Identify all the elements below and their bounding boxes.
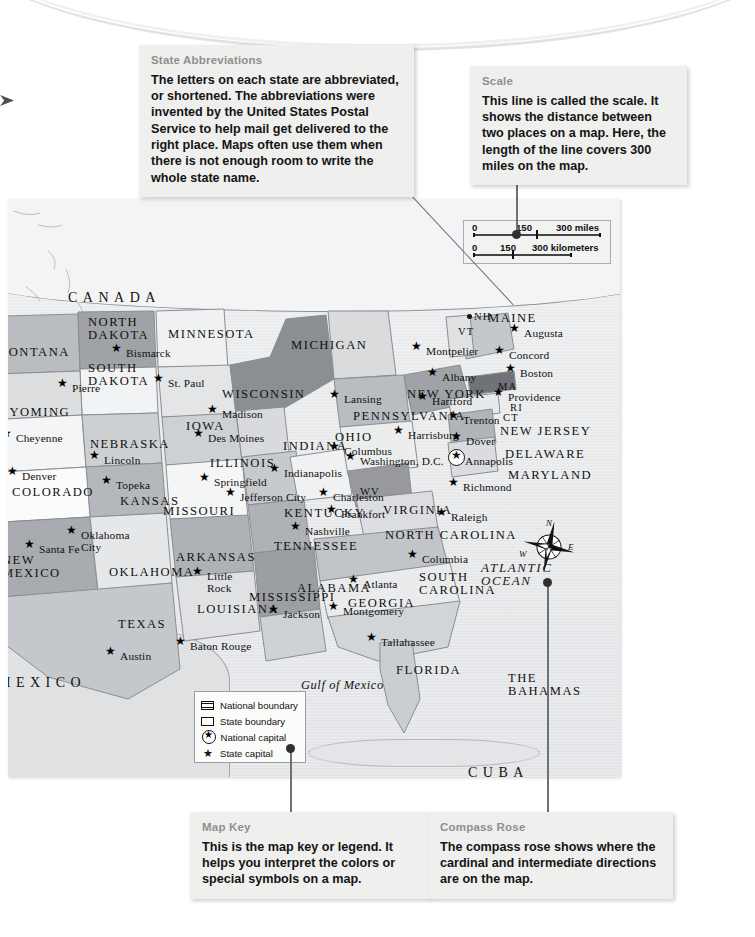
scale-label-km-mid: 150 (500, 242, 516, 253)
map-label-capital-33: Trenton (463, 415, 500, 426)
callout-title: Map Key (202, 821, 418, 834)
map-label-capital-16: Raleigh (451, 512, 487, 523)
page-edge-marker-icon (0, 95, 14, 106)
compass-label-north: N (546, 518, 552, 528)
map-label-state-3: WYOMING (8, 406, 70, 419)
map-label-state-5: NEBRASKA (90, 438, 170, 451)
map-label-capital-35: Hartford (432, 396, 472, 407)
map-label-capital-21: Annapolis (465, 456, 513, 467)
leader-dot-scale (512, 230, 521, 239)
map-scale-bar: 0 150 300 miles 0 150 300 kilometers (463, 220, 611, 264)
map-label-state-11: NEW MEXICO (8, 554, 61, 580)
map-label-capital-37: Boston (520, 368, 553, 379)
map-label-capital-25: Springfield (214, 477, 267, 488)
map-label-state-0: MONTANA (8, 346, 70, 359)
callout-compass-rose: Compass Rose The compass rose shows wher… (428, 812, 673, 899)
callout-body: The compass rose shows where the cardina… (440, 839, 662, 888)
map-label-capital-13: Atlanta (363, 579, 398, 590)
map-label-state-10: OKLAHOMA (109, 566, 194, 579)
map-label-capital-19: Charleston (333, 492, 384, 503)
scale-label-miles-end: 300 miles (556, 222, 599, 233)
map-label-capital-10: Little Rock (207, 571, 233, 594)
map-key-label: National boundary (220, 700, 298, 711)
map-label-state-25: OHIO (335, 431, 372, 444)
page-root: State Abbreviations The letters on each … (0, 0, 755, 937)
map-label-state-23: ILLINOIS (210, 457, 275, 470)
map-key-row-state-boundary: State boundary (201, 713, 299, 729)
map-label-capital-32: Dover (466, 436, 495, 447)
map-label-capital-1: Pierre (72, 383, 100, 394)
state-boundary-swatch-icon (201, 717, 214, 726)
map-label-capital-28: Madison (222, 409, 263, 420)
map-label-country-2: CUBA (468, 766, 529, 777)
map-key-row-state-capital: ★ State capital (201, 745, 299, 761)
scale-label-km-end: 300 kilometers (532, 242, 599, 253)
callout-title: Scale (482, 75, 676, 88)
callout-scale: Scale This line is called the scale. It … (470, 66, 687, 185)
map-label-state-38: NEW JERSEY (500, 425, 591, 438)
nh-point-marker-icon (467, 314, 472, 319)
map-label-capital-6: Santa Fe (39, 544, 80, 555)
map-label-capital-38: Concord (509, 350, 549, 361)
leader-dot-map-key (286, 744, 295, 753)
page-curve-inner (0, 0, 755, 51)
map-label-state-39: DELAWARE (505, 448, 585, 461)
map-label-capital-14: Tallahassee (381, 637, 435, 648)
compass-label-east: E (568, 542, 574, 552)
map-label-capital-23: Columbus (344, 446, 392, 457)
map-label-water-1: Gulf of Mexico (301, 679, 384, 691)
map-label-state-16: ALABAMA (297, 582, 371, 595)
map-label-state-33: NH (474, 312, 492, 323)
callout-body: This line is called the scale. It shows … (482, 93, 676, 175)
compass-rose: N E W (521, 519, 577, 575)
callout-title: State Abbreviations (151, 54, 403, 67)
map-label-state-18: FLORIDA (396, 664, 461, 677)
map-label-state-1: NORTH DAKOTA (88, 316, 149, 342)
map-label-capital-4: Lincoln (104, 455, 140, 466)
national-capital-marker-icon (448, 449, 465, 466)
map-label-capital-36: Providence (508, 392, 561, 403)
map-label-capital-29: St. Paul (168, 378, 205, 389)
map-label-region-0: THE BAHAMAS (508, 672, 581, 698)
map-label-capital-40: Montpelier (426, 346, 478, 357)
map-label-capital-18: Frankfort (341, 509, 385, 520)
map-label-state-37: CT (503, 413, 519, 424)
state-capital-star-icon: ★ (201, 748, 214, 759)
leader-line-compass-rose (547, 583, 549, 814)
scale-row-kilometers: 0 150 300 kilometers (464, 241, 610, 261)
map-label-capital-24: Indianapolis (284, 468, 342, 479)
map-label-state-12: TEXAS (118, 618, 166, 631)
map-label-state-19: TENNESSEE (274, 540, 358, 553)
callout-title: Compass Rose (440, 821, 662, 834)
map-label-capital-0: Bismarck (126, 348, 171, 359)
map-label-state-29: SOUTH CAROLINA (419, 571, 496, 597)
leader-dot-compass-rose (543, 578, 552, 587)
map-key-label: State capital (220, 748, 273, 759)
map-label-capital-30: Lansing (344, 394, 382, 405)
map-key-label: National capital (221, 732, 287, 743)
callout-state-abbreviations: State Abbreviations The letters on each … (139, 45, 414, 197)
map-label-state-21: WISCONSIN (222, 388, 305, 401)
map-label-state-34: VT (458, 327, 474, 338)
scale-label-km-start: 0 (472, 242, 477, 253)
compass-label-west: W (519, 549, 527, 559)
map-key-row-national-boundary: National boundary (201, 697, 299, 713)
map-label-state-8: IOWA (186, 420, 225, 433)
callout-body: This is the map key or legend. It helps … (202, 839, 418, 888)
map-label-capital-11: Jackson (283, 609, 320, 620)
scale-tick-miles-mid (536, 230, 538, 239)
map-label-capital-39: Augusta (524, 328, 563, 339)
map-label-capital-27: Des Moines (208, 433, 264, 444)
national-capital-star-circle-icon (202, 730, 216, 744)
map-label-capital-5: Topeka (116, 480, 150, 491)
scale-row-miles: 0 150 300 miles (464, 221, 610, 241)
leader-line-map-key (290, 748, 292, 814)
map-label-state-14: LOUISIANA (197, 603, 279, 616)
map-label-capital-12: Montgomery (343, 606, 404, 617)
map-label-state-13: ARKANSAS (176, 551, 256, 564)
map-label-state-9: MISSOURI (163, 505, 235, 518)
scale-bar-km-line (473, 253, 572, 257)
map-figure: CANADAMEXICOCUBATHE BAHAMASATLANTIC OCEA… (8, 199, 620, 777)
map-label-state-7: MINNESOTA (168, 328, 255, 341)
map-label-capital-2: Cheyenne (16, 433, 63, 444)
